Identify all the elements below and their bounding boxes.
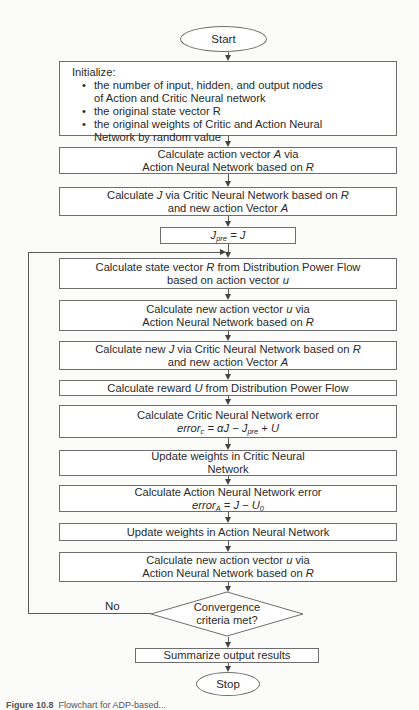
init-heading: Initialize:	[72, 66, 116, 79]
step-calc-new-action-vector-u: Calculate new action vector u via Action…	[59, 300, 397, 331]
arrow-head-icon	[220, 249, 226, 255]
decision-text: Convergence criteria met?	[180, 601, 274, 627]
loop-back-line	[28, 252, 29, 614]
step-calc-j: Calculate J via Critic Neural Network ba…	[59, 187, 397, 216]
init-bullet: the original state vector R	[94, 105, 334, 118]
step-calc-new-action-vector-u-2: Calculate new action vector u via Action…	[59, 552, 397, 582]
step-update-action-weights: Update weights in Action Neural Network	[59, 523, 397, 541]
step-update-critic-weights: Update weights in Critic Neural Network	[59, 450, 397, 476]
step-calc-action-vector-a: Calculate action vector A via Action Neu…	[59, 147, 397, 174]
no-branch-label: No	[105, 600, 120, 612]
init-bullet-list: the number of input, hidden, and output …	[72, 79, 334, 144]
init-bullet: the original weights of Critic and Actio…	[94, 118, 329, 144]
loop-back-line	[28, 613, 151, 614]
start-label: Start	[211, 33, 235, 45]
step-set-jpre: Jpre = J	[160, 227, 296, 244]
step-calc-state-vector-r: Calculate state vector R from Distributi…	[59, 258, 397, 289]
summarize-output-box: Summarize output results	[135, 648, 319, 663]
loop-back-line	[28, 252, 222, 253]
initialize-box: Initialize: the number of input, hidden,…	[59, 61, 397, 136]
stop-label: Stop	[216, 678, 240, 690]
step-calc-critic-error: Calculate Critic Neural Network error er…	[59, 405, 397, 438]
step-calc-action-error: Calculate Action Neural Network error er…	[59, 485, 397, 512]
step-calc-new-j: Calculate new J via Critic Neural Networ…	[59, 341, 397, 370]
figure-caption: Figure 10.8 Flowchart for ADP-based...	[6, 700, 166, 710]
init-bullet: the number of input, hidden, and output …	[94, 79, 334, 105]
start-terminal: Start	[180, 26, 267, 52]
stop-terminal: Stop	[196, 672, 260, 696]
step-calc-reward-u: Calculate reward U from Distribution Pow…	[59, 380, 397, 396]
